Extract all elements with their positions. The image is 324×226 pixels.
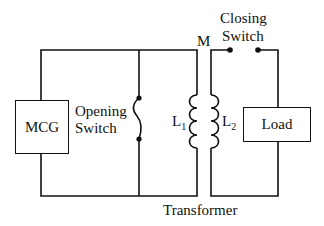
primary-bottom-wire [41, 148, 197, 196]
load-label: Load [262, 116, 293, 133]
l2-coil [211, 95, 219, 148]
closing-switch-right-contact [255, 47, 261, 53]
load-box: Load [243, 107, 311, 142]
l1-coil [190, 95, 198, 148]
l1-subscript: 1 [181, 121, 186, 132]
transformer-label: Transformer [163, 203, 237, 218]
l2-letter: L [222, 113, 231, 129]
l1-label: L1 [172, 114, 186, 134]
l2-subscript: 2 [231, 121, 236, 132]
opening-switch-bottom-contact [136, 136, 141, 141]
secondary-bottom-wire [211, 141, 278, 196]
closing-switch-left-contact [227, 47, 233, 53]
closing-switch-right-wire [258, 50, 278, 107]
closing-switch-label-line2: Switch [222, 29, 264, 44]
primary-top-wire [41, 50, 197, 100]
mutual-inductance-label: M [197, 34, 210, 49]
l1-letter: L [172, 113, 181, 129]
opening-switch-label-line2: Switch [75, 121, 117, 136]
mcg-label: MCG [25, 119, 59, 136]
closing-switch-label-line1: Closing [220, 11, 267, 26]
mcg-box: MCG [15, 100, 69, 154]
opening-switch-arc [133, 98, 141, 139]
opening-switch-top-contact [136, 95, 141, 100]
secondary-top-wire [211, 50, 230, 95]
opening-switch-label-line1: Opening [75, 104, 127, 119]
l2-label: L2 [222, 114, 236, 134]
